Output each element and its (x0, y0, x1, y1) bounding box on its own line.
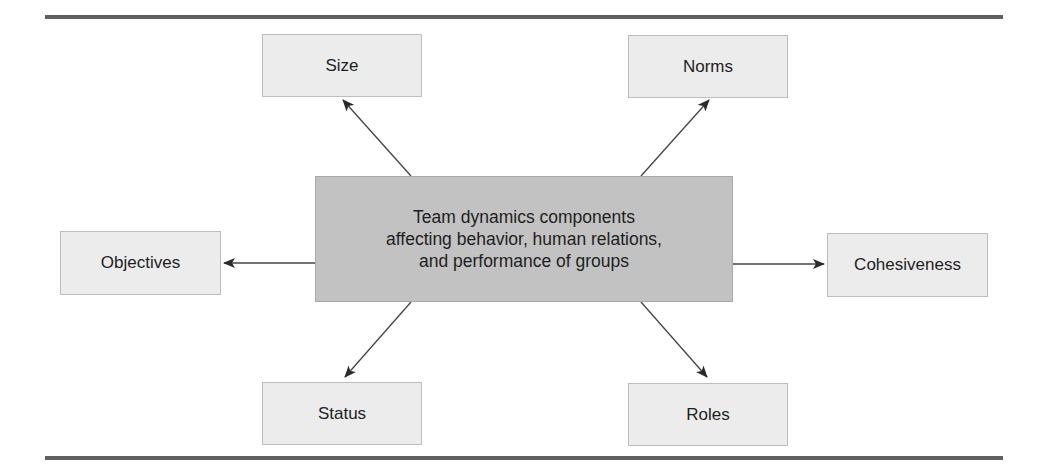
objectives-box: Objectives (60, 231, 221, 295)
norms-label: Norms (683, 57, 733, 77)
center-box: Team dynamics components affecting behav… (315, 176, 733, 302)
size-box: Size (262, 34, 422, 97)
cohesiveness-box: Cohesiveness (827, 233, 988, 297)
roles-box: Roles (628, 383, 788, 446)
status-label: Status (318, 404, 366, 424)
roles-label: Roles (686, 405, 729, 425)
arrow-to-status (345, 302, 411, 377)
norms-box: Norms (628, 35, 788, 98)
arrow-to-size (343, 100, 411, 176)
center-line-1: Team dynamics components (413, 206, 635, 228)
status-box: Status (262, 382, 422, 445)
center-line-2: affecting behavior, human relations, (386, 228, 662, 250)
arrow-to-roles (641, 302, 707, 377)
cohesiveness-label: Cohesiveness (854, 255, 961, 275)
arrow-to-norms (641, 100, 709, 176)
objectives-label: Objectives (101, 253, 180, 273)
center-line-3: and performance of groups (419, 250, 629, 272)
size-label: Size (325, 56, 358, 76)
